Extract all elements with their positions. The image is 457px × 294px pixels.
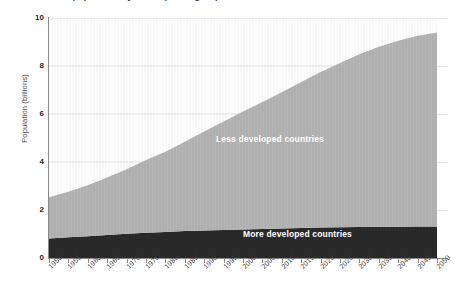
x-tick-label: 1955 xyxy=(66,254,82,270)
gridline-overrun xyxy=(437,66,448,67)
x-tick-label: 2000 xyxy=(241,254,257,270)
x-tick-label: 1965 xyxy=(105,254,121,270)
x-tick-label: 1975 xyxy=(144,254,160,270)
series-label-more-developed: More developed countries xyxy=(243,229,352,239)
x-tick-label: 1985 xyxy=(183,254,199,270)
x-tick-label: 1990 xyxy=(202,254,218,270)
x-tick-label: 2045 xyxy=(416,254,432,270)
x-tick-label: 1960 xyxy=(86,254,102,270)
x-tick-label: 1995 xyxy=(222,254,238,270)
gridline-overrun xyxy=(437,162,448,163)
x-tick-label: 2015 xyxy=(299,254,315,270)
gridline-overrun xyxy=(437,210,448,211)
gridline-overrun xyxy=(437,18,448,19)
x-tick-label: 2035 xyxy=(377,254,393,270)
x-tick-label: 2030 xyxy=(357,254,373,270)
x-tick-label: 1970 xyxy=(125,254,141,270)
population-area-chart: World population by development group Po… xyxy=(0,0,457,294)
series-label-less-developed: Less developed countries xyxy=(216,134,324,144)
gridline-overrun xyxy=(437,114,448,115)
x-tick-label: 2010 xyxy=(280,254,296,270)
x-axis-ticks: 1950195519601965197019751980198519901995… xyxy=(0,0,457,294)
x-tick-label: 2020 xyxy=(319,254,335,270)
x-tick-label: 2005 xyxy=(260,254,276,270)
x-tick-label: 2025 xyxy=(338,254,354,270)
x-tick-label: 2050 xyxy=(435,254,451,270)
x-tick-label: 1980 xyxy=(163,254,179,270)
x-tick-label: 1950 xyxy=(47,254,63,270)
x-tick-label: 2040 xyxy=(396,254,412,270)
